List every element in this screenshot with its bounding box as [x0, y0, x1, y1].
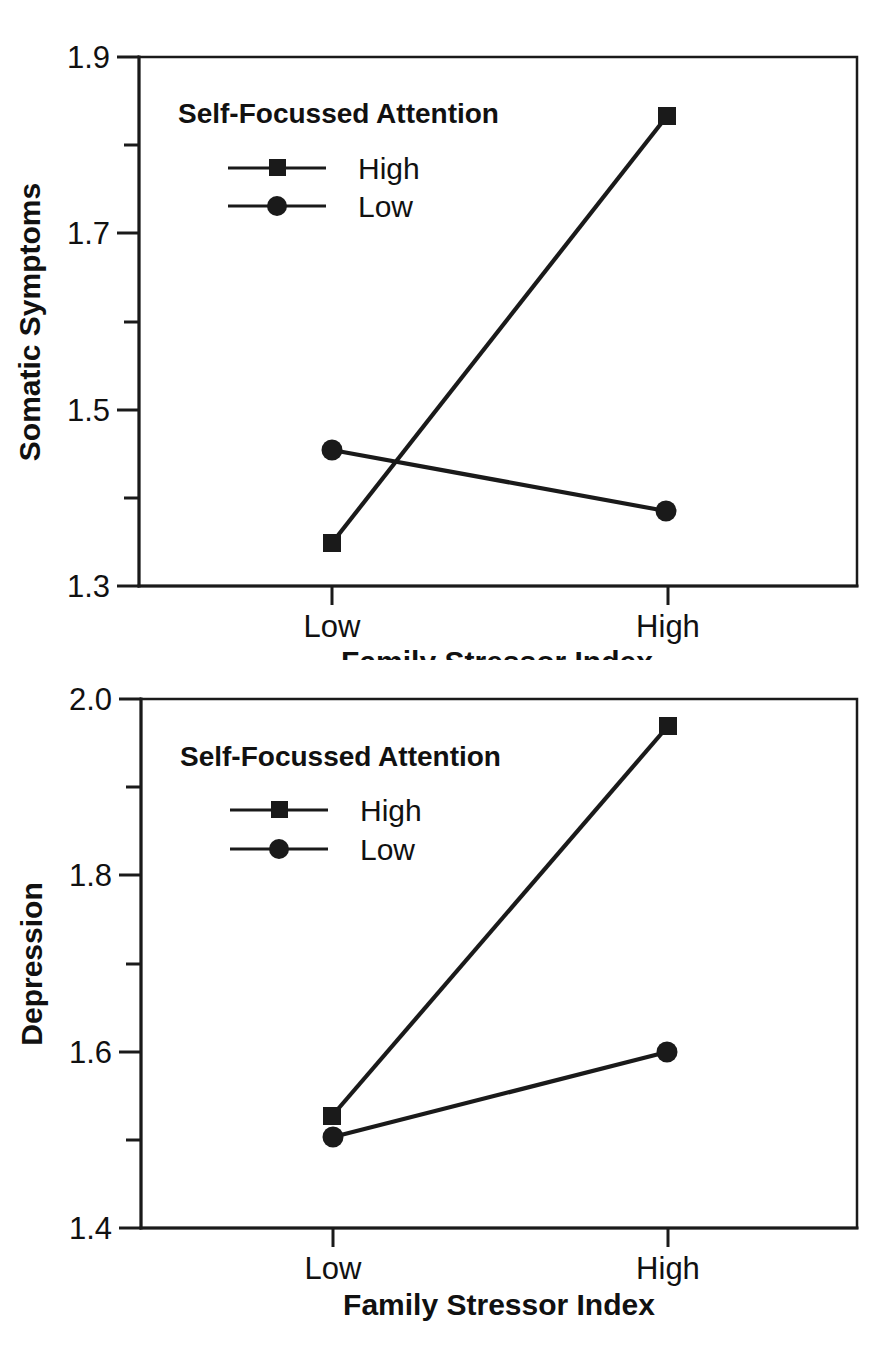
series-high-marker-high: [659, 717, 677, 735]
somatic-symptoms-plot: 1.9 1.7 1.5 1.3 Low High Family Stressor…: [0, 0, 894, 660]
legend-label-high: High: [358, 152, 420, 185]
series-low-marker-high: [656, 501, 677, 522]
series-low-line: [333, 1052, 667, 1137]
plot-frame: [141, 699, 857, 1228]
plot-frame: [139, 57, 857, 586]
y-tick-label-1: 1.5: [67, 393, 110, 428]
series-high-marker-high: [658, 107, 676, 125]
legend: Self-Focussed Attention High Low: [178, 98, 499, 223]
legend-circle-icon: [269, 839, 289, 859]
chart-panel-depression: 2.0 1.8 1.6 1.4 Low High Family Stressor…: [0, 660, 894, 1350]
x-axis-title: Family Stressor Index: [343, 1288, 655, 1321]
depression-plot: 2.0 1.8 1.6 1.4 Low High Family Stressor…: [0, 660, 894, 1350]
series-low-marker-low: [322, 440, 343, 461]
y-axis-title: Depression: [15, 882, 48, 1045]
y-tick-label-2: 1.7: [67, 216, 110, 251]
series-high-line: [332, 726, 668, 1116]
legend: Self-Focussed Attention High Low: [180, 741, 501, 866]
legend-label-low: Low: [360, 833, 415, 866]
legend-label-low: Low: [358, 190, 413, 223]
legend-circle-icon: [267, 196, 287, 216]
y-tick-label-2: 1.8: [69, 858, 112, 893]
series-low-marker-high: [657, 1042, 678, 1063]
legend-square-icon: [271, 801, 288, 818]
y-tick-label-3: 1.9: [67, 40, 110, 75]
y-axis-title: Somatic Symptoms: [13, 183, 46, 461]
series-low-marker-low: [323, 1127, 344, 1148]
legend-label-high: High: [360, 794, 422, 827]
legend-entry-high: High: [228, 152, 420, 185]
chart-panel-somatic-symptoms: 1.9 1.7 1.5 1.3 Low High Family Stressor…: [0, 0, 894, 660]
series-low: [323, 1042, 678, 1148]
legend-title: Self-Focussed Attention: [178, 98, 499, 129]
y-tick-label-0: 1.4: [69, 1211, 112, 1246]
y-tick-label-3: 2.0: [69, 682, 112, 717]
series-high-marker-low: [323, 534, 341, 552]
y-tick-label-0: 1.3: [67, 569, 110, 604]
x-axis-title: Family Stressor Index: [341, 645, 653, 660]
legend-square-icon: [269, 159, 286, 176]
x-category-label-high: High: [636, 609, 700, 644]
x-category-label-high: High: [636, 1251, 700, 1286]
x-category-label-low: Low: [304, 609, 361, 644]
legend-title: Self-Focussed Attention: [180, 741, 501, 772]
legend-entry-low: Low: [230, 833, 415, 866]
legend-entry-low: Low: [228, 190, 413, 223]
series-low: [322, 440, 677, 522]
legend-entry-high: High: [230, 794, 422, 827]
y-tick-label-1: 1.6: [69, 1035, 112, 1070]
x-category-label-low: Low: [305, 1251, 362, 1286]
series-high-marker-low: [323, 1107, 341, 1125]
